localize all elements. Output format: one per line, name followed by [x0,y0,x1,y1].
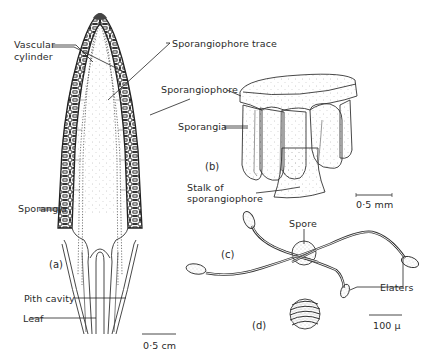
strobilus-section [58,13,142,334]
label-leaf: Leaf [23,313,44,324]
label-sporangia-a: Sporangia [18,203,67,214]
botanical-figure: Vascular cylinder Sporangiophore trace S… [0,0,438,362]
label-vascular-cylinder-1: Vascular [14,39,55,50]
scale-label-cd: 100 µ [373,320,401,331]
label-stalk-2: sporangiophore [187,193,263,204]
coiled-spore [290,299,320,329]
scale-label-a: 0·5 cm [143,340,176,351]
label-sporangiophore: Sporangiophore [161,84,238,95]
label-sporangiophore-trace: Sporangiophore trace [172,38,277,49]
label-vascular-cylinder-2: cylinder [14,51,53,62]
scale-label-b: 0·5 mm [356,199,393,210]
label-elaters: Elaters [380,282,414,293]
sporangiophore-drawing [240,74,357,198]
figure-drawing [0,0,438,362]
panel-label-c: (c) [221,249,234,260]
label-stalk-1: Stalk of [187,182,224,193]
panel-label-b: (b) [205,161,219,172]
label-pith-cavity: Pith cavity [24,293,75,304]
panel-label-d: (d) [252,320,266,331]
label-sporangia-b: Sporangia [178,121,227,132]
leader-lines-c [304,229,403,290]
panel-label-a: (a) [49,259,63,270]
label-spore: Spore [289,218,317,229]
